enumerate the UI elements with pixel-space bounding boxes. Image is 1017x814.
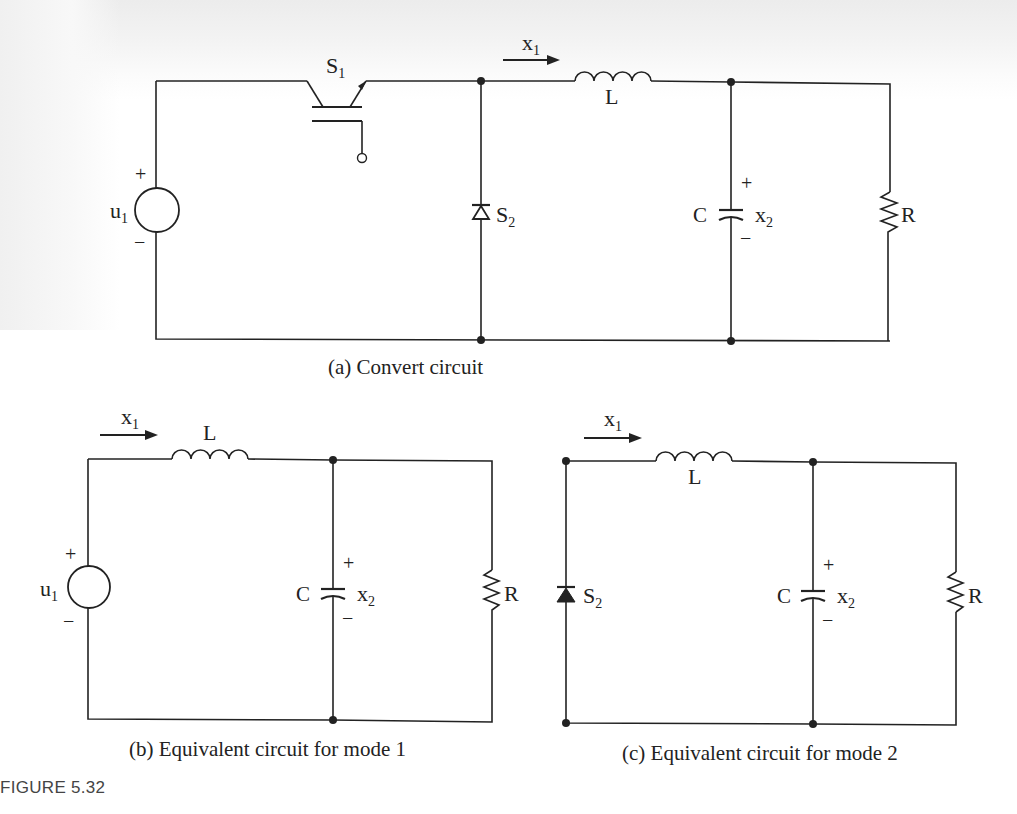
circuit-b: x1 L + − u1 C + − x2 R (b) Equivalent ci… bbox=[40, 404, 519, 761]
diode-s2-hollow-icon bbox=[472, 205, 490, 219]
cap-voltage-x2-label-b: x2 bbox=[357, 581, 375, 609]
source-plus-b: + bbox=[65, 543, 76, 565]
caption-c: (c) Equivalent circuit for mode 2 bbox=[622, 741, 898, 765]
resistor-r-label-a: R bbox=[901, 202, 916, 227]
inductor-l-label-a: L bbox=[605, 84, 618, 109]
cap-plus-a: + bbox=[741, 172, 752, 194]
inductor-a-icon bbox=[575, 72, 651, 81]
inductor-c-icon bbox=[656, 452, 732, 461]
source-u1-label-a: u1 bbox=[110, 198, 128, 226]
switch-s1-label: S1 bbox=[326, 53, 345, 81]
node-c-bottom-mid bbox=[809, 720, 817, 728]
node-a-bottom-1 bbox=[477, 336, 485, 344]
voltage-source-a-icon bbox=[135, 188, 179, 232]
cap-voltage-x2-label-a: x2 bbox=[755, 202, 773, 230]
circuit-figure: S1 x1 L S2 + − u1 C bbox=[0, 0, 1017, 814]
resistor-r-label-c: R bbox=[968, 583, 983, 608]
figure-number-label: FIGURE 5.32 bbox=[0, 778, 105, 798]
source-minus-b: − bbox=[63, 610, 74, 632]
cap-plus-c: + bbox=[823, 554, 834, 576]
wire-b-bottom bbox=[88, 608, 492, 722]
resistor-r-label-b: R bbox=[504, 581, 519, 606]
wire-c-top-right bbox=[732, 461, 956, 572]
current-x1-label-b: x1 bbox=[121, 404, 139, 432]
capacitor-c-label-a: C bbox=[693, 203, 707, 227]
cap-minus-a: − bbox=[740, 227, 751, 249]
igbt-switch-s1-icon bbox=[307, 81, 367, 163]
source-minus-a: − bbox=[134, 231, 145, 253]
wire-a-top-right bbox=[651, 81, 890, 192]
diode-s2-label-c: S2 bbox=[583, 583, 602, 611]
node-b-bottom bbox=[329, 716, 337, 724]
capacitor-c-label-b: C bbox=[296, 582, 310, 606]
source-plus-a: + bbox=[135, 163, 146, 185]
caption-b: (b) Equivalent circuit for mode 1 bbox=[129, 737, 406, 761]
cap-plus-b: + bbox=[343, 552, 354, 574]
node-c-bottom-left bbox=[562, 719, 570, 727]
cap-voltage-x2-label-c: x2 bbox=[837, 583, 855, 611]
circuit-c: x1 L S2 C + − x2 R (c) Equivalent circui… bbox=[557, 406, 983, 765]
voltage-source-b-icon bbox=[68, 566, 110, 608]
circuit-a: S1 x1 L S2 + − u1 C bbox=[110, 30, 916, 379]
resistor-b-icon bbox=[484, 570, 499, 620]
resistor-a-icon bbox=[881, 192, 897, 341]
inductor-l-label-b: L bbox=[203, 420, 216, 445]
diode-s2-solid-icon bbox=[557, 587, 575, 602]
diode-s2-label-a: S2 bbox=[496, 202, 515, 230]
source-u1-label-b: u1 bbox=[40, 576, 58, 604]
cap-minus-c: − bbox=[822, 609, 833, 631]
wire-a-bottom bbox=[156, 231, 890, 341]
wire-b-top-right bbox=[248, 459, 492, 570]
cap-minus-b: − bbox=[342, 607, 353, 629]
current-x1-label-c: x1 bbox=[604, 406, 622, 434]
inductor-l-label-c: L bbox=[688, 464, 701, 489]
wire-c-bottom bbox=[566, 602, 956, 725]
caption-a: (a) Convert circuit bbox=[328, 355, 483, 379]
current-x1-label-a: x1 bbox=[522, 30, 540, 58]
inductor-b-icon bbox=[172, 450, 248, 459]
resistor-c-icon bbox=[948, 572, 963, 612]
capacitor-c-label-c: C bbox=[777, 584, 791, 608]
node-a-bottom-2 bbox=[727, 337, 735, 345]
